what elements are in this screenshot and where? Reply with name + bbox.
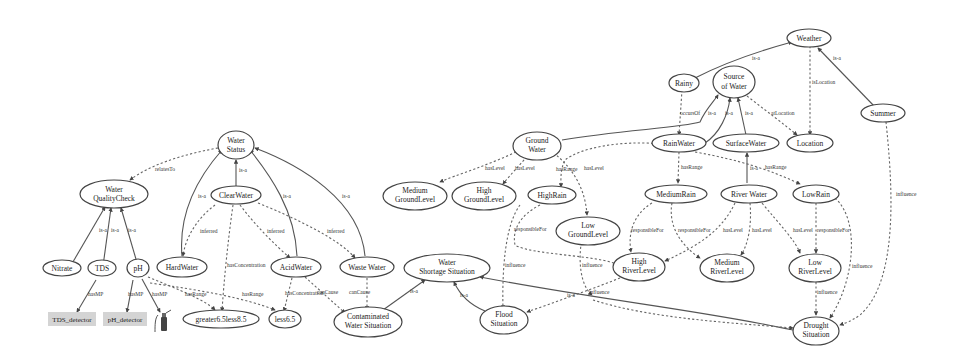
node-drought-situation[interactable]: Drought Situation bbox=[793, 317, 839, 345]
node-greater6-5less8-5[interactable]: greater6.5less8.5 bbox=[183, 310, 259, 328]
svg-text:hasLevel: hasLevel bbox=[584, 165, 604, 171]
node-rainy[interactable]: Rainy bbox=[669, 74, 699, 92]
node-source-of-water[interactable]: Source of Water bbox=[713, 66, 755, 98]
svg-text:is-a: is-a bbox=[342, 193, 351, 199]
svg-text:is-a: is-a bbox=[239, 167, 248, 173]
svg-text:Low: Low bbox=[581, 221, 595, 230]
svg-text:pH: pH bbox=[133, 264, 143, 273]
svg-text:influence: influence bbox=[582, 262, 603, 268]
edge-highriver-influence-flood: influence bbox=[527, 278, 620, 312]
edge-ph-range-less: hasRange bbox=[150, 283, 275, 310]
svg-text:Location: Location bbox=[797, 139, 824, 148]
svg-text:inferred: inferred bbox=[200, 228, 218, 234]
node-medium-river-level[interactable]: Medium RiverLevel bbox=[700, 254, 754, 282]
node-location[interactable]: Location bbox=[787, 134, 833, 152]
svg-text:High: High bbox=[477, 186, 492, 195]
svg-text:responsibleFor: responsibleFor bbox=[514, 226, 547, 232]
svg-text:influence: influence bbox=[817, 289, 838, 295]
svg-text:Source: Source bbox=[724, 72, 745, 81]
box-ph-detector[interactable]: pH_detector bbox=[103, 312, 147, 326]
edge-ground-isa-source: is-a bbox=[562, 95, 718, 140]
node-high-ground-level[interactable]: High GroundLevel bbox=[452, 182, 516, 210]
node-medium-ground-level[interactable]: Medium GroundLevel bbox=[383, 182, 447, 210]
node-acid-water[interactable]: AcidWater bbox=[271, 257, 321, 277]
edge-ph-isa-quality: is-a bbox=[121, 208, 138, 266]
node-contaminated-water-situation[interactable]: Contaminated Water Situation bbox=[334, 307, 402, 337]
svg-text:is-a: is-a bbox=[111, 227, 120, 233]
edge-flood-isa-shortage: is-a bbox=[454, 282, 485, 311]
node-water-shortage-situation[interactable]: Water Shortage Situation bbox=[404, 254, 490, 282]
svg-text:canCause: canCause bbox=[349, 289, 371, 295]
svg-text:Medium: Medium bbox=[714, 258, 740, 267]
node-tds[interactable]: TDS bbox=[88, 260, 116, 276]
edge-clear-inferred-acid: inferred bbox=[240, 205, 290, 258]
box-tds-detector[interactable]: TDS_detector bbox=[48, 312, 96, 326]
svg-text:AcidWater: AcidWater bbox=[280, 263, 313, 272]
edge-waste-causes: canCause bbox=[349, 278, 371, 310]
svg-text:is-a: is-a bbox=[410, 288, 419, 294]
node-surface-water[interactable]: SurfaceWater bbox=[713, 134, 779, 152]
svg-text:RainWater: RainWater bbox=[663, 139, 695, 148]
node-ground-water[interactable]: Ground Water bbox=[513, 132, 561, 160]
svg-text:Nitrate: Nitrate bbox=[52, 264, 73, 273]
svg-text:QualityCheck: QualityCheck bbox=[93, 194, 135, 203]
svg-text:Status: Status bbox=[227, 145, 245, 154]
node-low-rain[interactable]: LowRain bbox=[793, 185, 839, 203]
node-hard-water[interactable]: HardWater bbox=[157, 257, 207, 277]
svg-text:GroundLevel: GroundLevel bbox=[395, 195, 435, 204]
svg-text:RiverLevel: RiverLevel bbox=[710, 267, 744, 276]
node-nitrate[interactable]: Nitrate bbox=[43, 260, 81, 276]
node-less6-5[interactable]: less6.5 bbox=[269, 310, 301, 328]
node-ph[interactable]: pH bbox=[127, 259, 149, 277]
edge-rain-range-medium: hasRange bbox=[678, 152, 703, 183]
node-rain-water[interactable]: RainWater bbox=[652, 134, 706, 152]
edge-rainy-occurs-rain: occursOf bbox=[679, 90, 700, 135]
edge-weather-location: isLocation bbox=[810, 46, 835, 135]
node-weather[interactable]: Weather bbox=[787, 29, 831, 47]
svg-text:hasLevel: hasLevel bbox=[793, 227, 813, 233]
svg-text:influence: influence bbox=[505, 262, 526, 268]
node-clear-water[interactable]: ClearWater bbox=[211, 186, 261, 204]
svg-text:Medium: Medium bbox=[402, 186, 428, 195]
node-flood-situation[interactable]: Flood Situation bbox=[480, 306, 528, 334]
node-water-quality-check[interactable]: Water QualityCheck bbox=[80, 180, 148, 208]
svg-text:hasMP: hasMP bbox=[88, 291, 103, 297]
sensor-device-icon bbox=[155, 310, 171, 332]
edge-mediumrain-responsible-medium: responsibleFor bbox=[671, 203, 711, 258]
svg-text:Weather: Weather bbox=[797, 34, 822, 43]
svg-text:is-a: is-a bbox=[198, 193, 207, 199]
svg-text:hasMP: hasMP bbox=[128, 291, 143, 297]
svg-text:MediumRain: MediumRain bbox=[656, 190, 696, 199]
svg-text:Low: Low bbox=[808, 258, 822, 267]
edge-status-relates-quality: relatesTo bbox=[130, 148, 218, 180]
svg-text:hasRange: hasRange bbox=[242, 291, 264, 297]
edge-lowrain-influence-drought: influence bbox=[830, 198, 873, 318]
node-medium-rain[interactable]: MediumRain bbox=[645, 185, 707, 203]
node-high-rain[interactable]: HighRain bbox=[528, 186, 576, 204]
edge-tds-isa-quality: is-a bbox=[103, 208, 120, 266]
svg-text:responsibleFor: responsibleFor bbox=[678, 227, 711, 233]
svg-text:Summer: Summer bbox=[870, 109, 896, 118]
node-waste-water[interactable]: Waste Water bbox=[340, 257, 394, 277]
svg-text:Water: Water bbox=[105, 185, 123, 194]
svg-text:Flood: Flood bbox=[495, 310, 513, 319]
svg-text:Situation: Situation bbox=[490, 319, 517, 328]
edge-nitrate-isa-quality: is-a bbox=[70, 207, 108, 267]
node-low-ground-level[interactable]: Low GroundLevel bbox=[556, 217, 620, 245]
node-low-river-level[interactable]: Low RiverLevel bbox=[789, 254, 841, 282]
edge-ph-hasmp-detector: hasMP bbox=[127, 280, 143, 312]
svg-text:is-a: is-a bbox=[283, 193, 292, 199]
node-river-water[interactable]: River Water bbox=[721, 185, 777, 203]
svg-text:HighRain: HighRain bbox=[537, 191, 566, 200]
svg-text:relatesTo: relatesTo bbox=[155, 166, 175, 172]
node-summer[interactable]: Summer bbox=[861, 104, 905, 122]
edge-tds-hasmp: hasMP bbox=[77, 280, 103, 312]
svg-text:Ground: Ground bbox=[526, 136, 549, 145]
svg-text:greater6.5less8.5: greater6.5less8.5 bbox=[196, 315, 247, 324]
svg-text:isLocation: isLocation bbox=[812, 79, 835, 85]
svg-text:pH_detector: pH_detector bbox=[108, 316, 143, 324]
svg-text:is-a: is-a bbox=[708, 110, 717, 116]
node-high-river-level[interactable]: High RiverLevel bbox=[613, 253, 665, 281]
node-water-status[interactable]: Water Status bbox=[218, 131, 254, 159]
svg-text:is-a: is-a bbox=[725, 110, 734, 116]
